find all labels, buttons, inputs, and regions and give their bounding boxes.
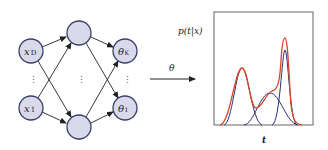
hidden-node-top [67,21,91,45]
mapping-arrow-label: θ [169,63,175,73]
input-node-xD: xD [19,39,43,63]
edge-x1-h2 [42,112,66,123]
input-ellipsis: ⋮ [29,75,38,85]
output-node-thetaK: θK [113,39,137,63]
hidden-ellipsis: ⋮ [77,75,86,85]
output-node-theta1: θ1 [113,96,137,120]
hidden-node-bottom [67,115,91,139]
input-node-x1: x1 [19,96,43,120]
edge-h2-theta1 [91,112,113,123]
edge-h1-thetaK [91,37,113,47]
edge-xD-h1 [42,37,66,47]
output-ellipsis: ⋮ [123,75,132,85]
plot-ylabel: p(t|x) [178,26,203,37]
plot-xlabel: t [262,135,267,145]
diagram-canvas: xD x1 θK θ1 ⋮ ⋮ ⋮ θ p(t|x) t [0,0,328,150]
